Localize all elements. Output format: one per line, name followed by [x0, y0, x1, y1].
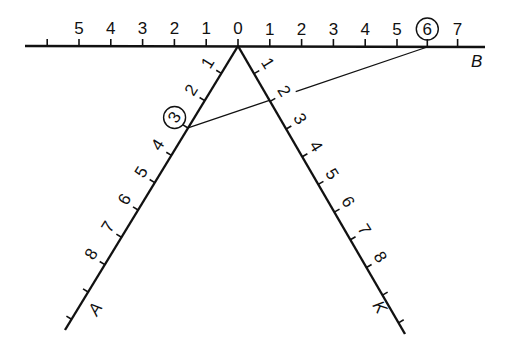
- tick-label: 2: [273, 82, 294, 100]
- axis-label-b: B: [471, 52, 482, 71]
- tick-label: 5: [74, 19, 83, 38]
- tick-label: 6: [423, 20, 432, 39]
- tick: [183, 125, 188, 128]
- tick: [116, 234, 121, 237]
- tick: [366, 264, 371, 267]
- diagram-canvas: 0123451234567 12345678 12345678 B A K: [0, 0, 509, 353]
- tick-label: 5: [131, 163, 152, 181]
- scale-b: 0123451234567: [25, 18, 485, 47]
- tick-label: 7: [97, 218, 118, 236]
- tick-label: 6: [337, 193, 358, 211]
- tick-label: 4: [305, 137, 326, 155]
- tick: [200, 98, 205, 101]
- tick: [216, 70, 221, 73]
- scale-a: 12345678: [65, 46, 238, 330]
- tick: [350, 237, 355, 240]
- scaleK-line: [238, 46, 405, 334]
- tick-label: 8: [370, 248, 391, 266]
- axis-label-k: K: [369, 297, 391, 317]
- scale-b-line: [25, 46, 485, 47]
- tick: [66, 316, 71, 319]
- tick-label: 3: [289, 110, 310, 128]
- tick-label: 3: [329, 20, 338, 39]
- tick-label: 5: [321, 165, 342, 183]
- tick-label: 4: [147, 136, 168, 154]
- tick-label: 7: [453, 20, 462, 39]
- tick-label-0: 0: [233, 19, 242, 38]
- tick: [302, 154, 307, 157]
- tick-label: 2: [181, 81, 202, 99]
- tick-label: 3: [164, 108, 185, 126]
- tick: [133, 207, 138, 210]
- tick-label: 1: [257, 54, 278, 72]
- tick: [254, 71, 259, 74]
- scaleA-line: [65, 46, 238, 330]
- tick: [270, 98, 275, 101]
- tick: [399, 320, 404, 323]
- tick-label: 2: [297, 20, 306, 39]
- tick-label: 1: [201, 19, 210, 38]
- tick: [318, 181, 323, 184]
- tick: [382, 292, 387, 295]
- scale-k: 12345678: [238, 46, 405, 334]
- tick: [166, 152, 171, 155]
- tick-label: 8: [81, 245, 102, 263]
- tick-label: 4: [106, 19, 115, 38]
- tick: [150, 180, 155, 183]
- tick-label: 7: [354, 220, 375, 238]
- tick-label: 1: [197, 54, 218, 72]
- tick-label: 2: [170, 19, 179, 38]
- tick: [286, 126, 291, 129]
- tick-label: 5: [392, 20, 401, 39]
- tick-label: 4: [360, 20, 369, 39]
- tick-label: 3: [138, 19, 147, 38]
- tick: [334, 209, 339, 212]
- axis-label-a: A: [84, 299, 107, 320]
- tick: [83, 289, 88, 292]
- tick-label: 1: [265, 20, 274, 39]
- tick: [100, 262, 105, 265]
- tick-label: 6: [114, 190, 135, 208]
